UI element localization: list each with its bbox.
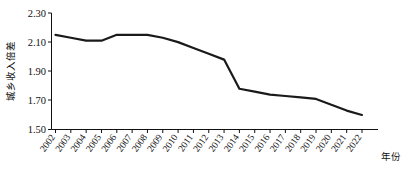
x-tick-label: 2007	[115, 132, 134, 154]
x-tick-label: 2019	[299, 132, 318, 154]
x-tick-label: 2015	[237, 132, 256, 154]
x-tick-label: 2014	[222, 132, 241, 154]
y-axis-ticks	[48, 13, 52, 130]
x-tick-label: 2003	[53, 132, 72, 154]
y-tick-label: 1.90	[28, 66, 46, 77]
y-tick-label: 1.70	[28, 95, 46, 106]
x-tick-label: 2020	[314, 132, 333, 154]
x-tick-label: 2022	[345, 132, 364, 154]
x-axis-ticks	[56, 130, 363, 134]
chart-container: 城乡收入倍差 2.30 2.10 1.90 1.70 1.50 20022003…	[0, 0, 408, 180]
x-tick-label: 2016	[253, 132, 272, 154]
x-tick-label: 2008	[130, 132, 149, 154]
y-tick-labels: 2.30 2.10 1.90 1.70 1.50	[28, 8, 46, 135]
data-series-line	[56, 35, 363, 115]
x-tick-label: 2011	[176, 132, 195, 153]
y-tick-label: 2.10	[28, 37, 46, 48]
x-tick-label: 2009	[145, 132, 164, 154]
x-tick-label: 2010	[161, 132, 180, 154]
x-tick-label: 2013	[207, 132, 226, 154]
y-tick-label: 1.50	[28, 124, 46, 135]
x-tick-label: 2012	[191, 132, 210, 154]
x-tick-label: 2005	[84, 132, 103, 154]
x-tick-label: 2004	[69, 132, 88, 154]
y-axis-label-text: 城乡收入倍差	[5, 41, 16, 101]
x-tick-labels: 2002200320042005200620072008200920102011…	[38, 132, 364, 154]
line-chart: 城乡收入倍差 2.30 2.10 1.90 1.70 1.50 20022003…	[0, 0, 408, 180]
x-tick-label: 2002	[38, 132, 57, 154]
y-axis-label: 城乡收入倍差	[5, 41, 16, 101]
x-tick-label: 2017	[268, 132, 287, 154]
y-tick-label: 2.30	[28, 8, 46, 19]
x-tick-label: 2018	[283, 132, 302, 154]
x-tick-label: 2021	[329, 132, 348, 154]
x-tick-label: 2006	[99, 132, 118, 154]
x-axis-label-text: 年份	[381, 151, 401, 162]
